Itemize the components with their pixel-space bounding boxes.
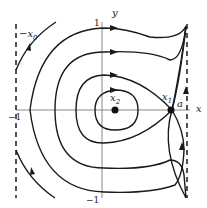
orbit-1: [30, 26, 186, 192]
tick-y-pos: 1: [94, 19, 100, 28]
label-a: a: [177, 99, 183, 109]
label-x1: x1: [162, 92, 172, 105]
orbit-3: [76, 75, 172, 143]
phase-portrait: y x 1 −1 −1 x2 x1 a −x0: [0, 0, 207, 208]
orbit-2: [55, 52, 186, 198]
x-axis-label: x: [196, 104, 202, 114]
label-x2: x2: [110, 93, 120, 106]
arrow-marker: [30, 167, 35, 175]
tick-x-neg: −1: [8, 113, 21, 122]
equilibrium-x1: [168, 107, 175, 114]
tick-y-neg: −1: [86, 196, 99, 205]
orbit-2-top: [104, 26, 186, 60]
label-neg-x0: −x0: [19, 29, 38, 42]
orbit-left-bottom: [16, 150, 55, 198]
y-axis-label: y: [112, 8, 118, 18]
equilibrium-x2: [112, 107, 119, 114]
